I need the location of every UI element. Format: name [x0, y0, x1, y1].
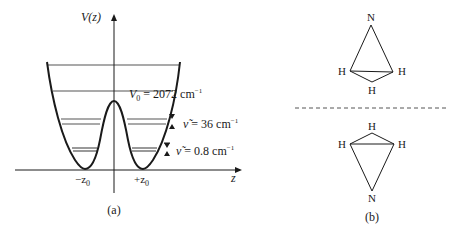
y-axis-label: V(z) — [81, 10, 101, 24]
ammonia-molecule-n-down: H H H N — [338, 120, 406, 204]
barrier-height-label: V0 = 2072 cm−1 — [129, 87, 203, 103]
atom-label-h-top: H — [368, 120, 376, 132]
splitting-lower-down-arrow-icon — [164, 143, 170, 148]
splitting-lower-up-arrow-icon — [164, 151, 170, 156]
panel-a-double-well-potential: V(z) z −z0 +z0 V0 = 2072 cm−1 ν̃ = 36 cm… — [15, 10, 242, 217]
edge-h-h-left-front — [350, 71, 372, 82]
tick-label-plus-z0: +z0 — [134, 173, 149, 188]
bond-n-h-left — [350, 25, 371, 71]
x-axis-label: z — [230, 171, 236, 185]
caption-a: (a) — [107, 203, 120, 217]
splitting-upper-up-arrow-icon — [169, 124, 175, 129]
splitting-lower-label: ν̃ = 0.8 cm−1 — [176, 144, 235, 158]
panel-b-ammonia-inversion: N H H H H H H N (b) — [295, 11, 448, 224]
atom-label-h-right: H — [398, 138, 406, 150]
y-axis-arrow-icon — [111, 14, 117, 21]
diagram-canvas: V(z) z −z0 +z0 V0 = 2072 cm−1 ν̃ = 36 cm… — [0, 0, 458, 231]
x-axis-arrow-icon — [235, 167, 242, 173]
atom-label-h-bottom: H — [368, 84, 376, 96]
edge-h-h-right-front — [372, 72, 393, 82]
atom-label-h-right: H — [398, 65, 406, 77]
atom-label-h-left: H — [338, 65, 346, 77]
edge-h-h-back — [350, 71, 393, 72]
bond-n-h-right — [371, 25, 393, 72]
atom-label-n: N — [368, 192, 376, 204]
tick-label-minus-z0: −z0 — [75, 173, 90, 188]
bond-n-h-right — [372, 144, 394, 191]
bond-n-h-left — [350, 144, 372, 191]
splitting-upper-label: ν̃ = 36 cm−1 — [183, 117, 239, 131]
ammonia-molecule-n-up: N H H H — [338, 11, 406, 96]
caption-b: (b) — [365, 210, 379, 224]
edge-h-h-left-top — [350, 133, 372, 144]
atom-label-n: N — [367, 11, 375, 23]
edge-h-h-right-top — [372, 133, 394, 144]
atom-label-h-left: H — [338, 138, 346, 150]
